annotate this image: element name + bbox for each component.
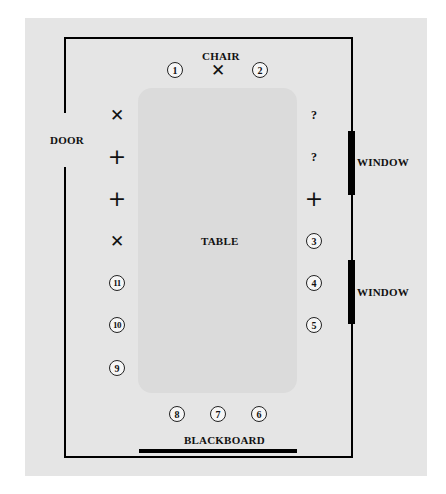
chair-cross-icon: ✕ [210,62,226,78]
seat-5: 5 [306,317,322,333]
window-upper-label: WINDOW [357,156,409,168]
seat-6: 6 [251,406,267,422]
cross-icon: ✕ [109,107,125,123]
seat-8: 8 [169,406,185,422]
wall-top [64,37,353,39]
seat-2: 2 [252,62,268,78]
wall-left-lower [64,167,66,458]
plus-icon: + [306,191,322,207]
seat-7: 7 [210,406,226,422]
window-lower-label: WINDOW [357,286,409,298]
window-upper [348,131,355,195]
seat-11: 11 [109,275,125,291]
blackboard [139,449,297,453]
question-icon: ? [306,149,322,165]
seat-9: 9 [109,360,125,376]
plus-icon: + [109,149,125,165]
wall-bottom [64,456,353,458]
blackboard-label: BLACKBOARD [184,434,265,446]
door-label: DOOR [50,134,84,146]
seat-1: 1 [167,62,183,78]
seat-3: 3 [306,233,322,249]
window-lower [348,260,355,324]
plus-icon: + [109,191,125,207]
question-icon: ? [306,107,322,123]
cross-icon: ✕ [109,233,125,249]
seat-10: 10 [109,317,125,333]
wall-right [351,37,353,458]
seat-4: 4 [306,275,322,291]
wall-left-upper [64,37,66,113]
table-label: TABLE [201,235,238,247]
